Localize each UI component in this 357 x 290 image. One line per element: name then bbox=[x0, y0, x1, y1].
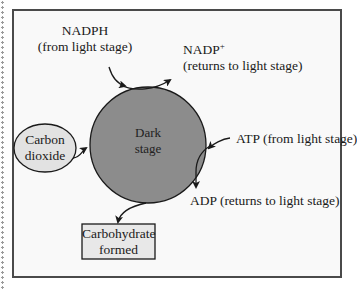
dark-stage-label: Dark stage bbox=[118, 125, 178, 157]
nadp-destination-text: (returns to light stage) bbox=[183, 58, 303, 74]
carbon-dioxide-label: Carbon dioxide bbox=[14, 132, 76, 164]
nadp-text: NADP bbox=[183, 42, 220, 57]
atp-text: ATP (from light stage) bbox=[236, 131, 357, 146]
carbohydrate-arrow-icon bbox=[118, 203, 146, 222]
nadph-source-text: (from light stage) bbox=[35, 39, 135, 55]
carbohydrate-label: Carbohydrate formed bbox=[82, 226, 155, 258]
nadp-superscript: + bbox=[220, 41, 225, 51]
carbohydrate-text-1: Carbohydrate bbox=[82, 226, 155, 242]
atp-label: ATP (from light stage) bbox=[236, 131, 357, 147]
nadp-label: NADP+ (returns to light stage) bbox=[183, 42, 303, 74]
adp-label: ADP (returns to light stage) bbox=[190, 193, 339, 209]
adp-text: ADP (returns to light stage) bbox=[190, 193, 339, 208]
carbohydrate-text-2: formed bbox=[82, 242, 155, 258]
nadph-arrow-icon bbox=[109, 67, 125, 86]
nadph-text: NADPH bbox=[35, 23, 135, 39]
nadph-label: NADPH (from light stage) bbox=[35, 23, 135, 55]
carbon-dioxide-text-2: dioxide bbox=[14, 148, 76, 164]
atp-arrow-icon bbox=[209, 138, 230, 148]
carbon-dioxide-text-1: Carbon bbox=[14, 132, 76, 148]
dark-stage-text-2: stage bbox=[118, 141, 178, 157]
dark-stage-text-1: Dark bbox=[118, 125, 178, 141]
